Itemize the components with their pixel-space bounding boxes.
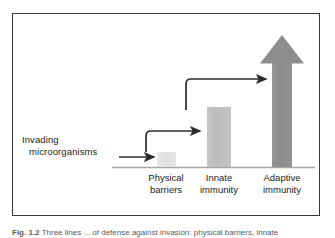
invading-line-2: microorganisms bbox=[22, 146, 97, 158]
axis-label-innate-line-1: Innate bbox=[188, 172, 250, 184]
invading-microorganisms-label: Invading microorganisms bbox=[22, 134, 97, 157]
invading-line-1: Invading bbox=[22, 134, 59, 145]
arrow-innate-to-adaptive bbox=[186, 79, 266, 110]
axis-label-innate-immunity: Innate immunity bbox=[188, 172, 250, 195]
figure-caption-text: Three lines ... of defense against invas… bbox=[42, 228, 279, 237]
bar-innate-immunity bbox=[207, 107, 231, 167]
figure-caption-number: Fig. 1.2 bbox=[12, 228, 40, 237]
axis-label-innate-line-2: immunity bbox=[188, 184, 250, 196]
bar-adaptive-immunity bbox=[260, 35, 304, 167]
bar-physical-barriers bbox=[157, 152, 176, 167]
figure-root: Invading microorganisms Physical barrier… bbox=[0, 0, 335, 238]
arrow-physical-to-innate bbox=[146, 131, 200, 152]
axis-label-adaptive-immunity: Adaptive immunity bbox=[251, 172, 313, 195]
immune-defense-diagram bbox=[0, 0, 335, 238]
axis-label-adaptive-line-1: Adaptive bbox=[251, 172, 313, 184]
figure-caption: Fig. 1.2 Three lines ... of defense agai… bbox=[12, 228, 335, 238]
axis-label-adaptive-line-2: immunity bbox=[251, 184, 313, 196]
